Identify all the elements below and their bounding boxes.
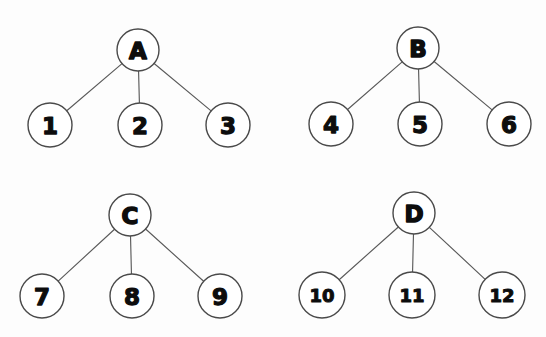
tree-edge [429, 227, 485, 279]
tree-leaf-node[interactable]: 7 [20, 274, 64, 318]
tree-leaf-node[interactable]: 11 [389, 272, 435, 318]
tree-edge [146, 229, 204, 281]
tree-edge [339, 227, 398, 280]
tree-root-node[interactable]: D [393, 192, 435, 234]
tree-root-node[interactable]: B [397, 27, 439, 69]
node-label: 10 [309, 285, 334, 306]
diagram-canvas: A123B456C789D101112 [0, 0, 546, 337]
tree-edge [348, 62, 403, 110]
node-label: 2 [132, 113, 148, 139]
tree-root-node[interactable]: A [117, 29, 159, 71]
node-label: B [409, 36, 427, 62]
node-label: 6 [501, 112, 517, 138]
tree-leaf-node[interactable]: 4 [309, 102, 353, 146]
tree-edge [58, 229, 114, 281]
tree-leaf-node[interactable]: 9 [198, 274, 242, 318]
tree-leaf-node[interactable]: 5 [398, 102, 442, 146]
tree-edge [139, 71, 140, 103]
node-label: 12 [489, 285, 514, 306]
node-label: D [404, 201, 423, 227]
edges-layer [58, 61, 492, 281]
tree-edge [67, 64, 122, 111]
node-label: 3 [220, 113, 236, 139]
tree-leaf-node[interactable]: 10 [299, 272, 345, 318]
node-label: 9 [212, 284, 228, 310]
node-label: 5 [412, 112, 428, 138]
node-label: 7 [34, 284, 50, 310]
tree-edge [131, 236, 132, 274]
node-label: C [122, 203, 139, 229]
tree-leaf-node[interactable]: 1 [28, 103, 72, 147]
tree-leaf-node[interactable]: 2 [118, 103, 162, 147]
node-label: A [129, 38, 147, 64]
tree-edge [434, 61, 492, 109]
tree-leaf-node[interactable]: 12 [479, 272, 525, 318]
tree-leaf-node[interactable]: 3 [206, 103, 250, 147]
tree-diagram-svg: A123B456C789D101112 [0, 0, 546, 337]
node-label: 4 [323, 112, 339, 138]
tree-leaf-node[interactable]: 6 [487, 102, 531, 146]
node-label: 8 [124, 284, 140, 310]
tree-leaf-node[interactable]: 8 [110, 274, 154, 318]
tree-edge [413, 234, 414, 272]
nodes-layer: A123B456C789D101112 [20, 27, 531, 318]
node-label: 1 [42, 113, 58, 139]
tree-edge [419, 69, 420, 102]
node-label: 11 [399, 285, 424, 306]
tree-root-node[interactable]: C [109, 194, 151, 236]
tree-edge [154, 63, 211, 110]
